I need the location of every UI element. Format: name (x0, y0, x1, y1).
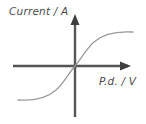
x-axis-label: P.d. / V (99, 76, 136, 87)
y-axis-label: Current / A (9, 6, 68, 17)
plot-area (0, 0, 146, 124)
arrow-right-icon (120, 62, 131, 71)
arrow-up-icon (71, 14, 80, 25)
iv-characteristic-figure: Current / A P.d. / V (0, 0, 146, 124)
